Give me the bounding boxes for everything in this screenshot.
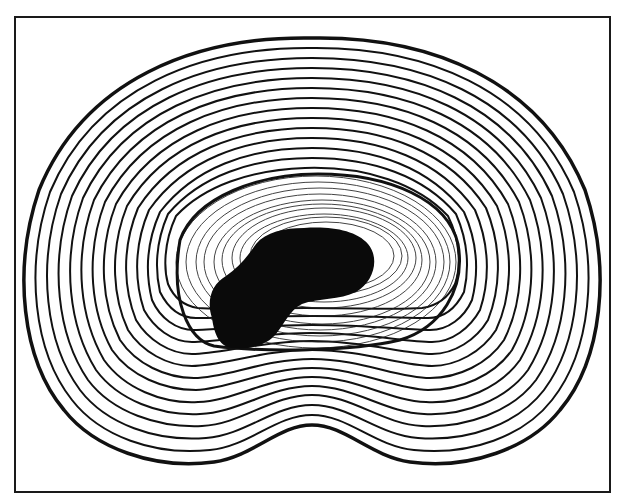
disc-illustration <box>0 0 624 503</box>
